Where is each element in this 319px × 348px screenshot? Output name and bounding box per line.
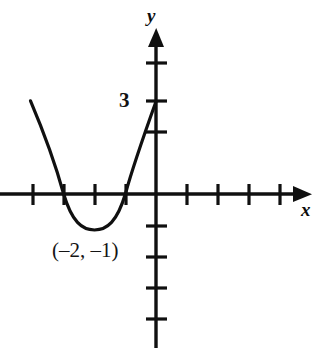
y-axis-arrowhead xyxy=(148,28,164,47)
y-tick-label-3: 3 xyxy=(119,90,130,111)
y-axis xyxy=(146,28,167,348)
vertex-annotation-label: (–2, –1) xyxy=(52,240,119,261)
graph-figure: y x 3 (–2, –1) xyxy=(0,0,319,348)
y-axis-label: y xyxy=(147,6,155,25)
coordinate-plane xyxy=(0,0,319,348)
x-axis-label: x xyxy=(301,200,311,219)
parabola-curve xyxy=(31,101,157,230)
